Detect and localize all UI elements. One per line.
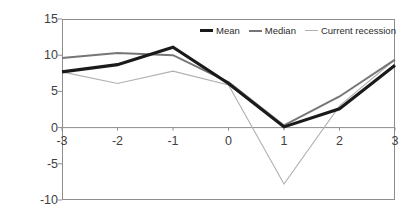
legend-entry: Mean (200, 26, 240, 36)
chart-legend: MeanMedianCurrent recession (200, 26, 396, 36)
series-line (62, 60, 395, 185)
legend-entry: Current recession (305, 26, 396, 36)
legend-swatch-icon (249, 30, 262, 32)
legend-swatch-icon (305, 30, 318, 31)
legend-label: Mean (216, 26, 240, 36)
line-chart: 151050-5-10 -3-2-10123 MeanMedianCurrent… (0, 0, 410, 219)
legend-entry: Median (249, 26, 296, 36)
legend-swatch-icon (200, 29, 213, 32)
series-line (62, 47, 395, 127)
legend-label: Current recession (321, 26, 396, 36)
legend-label: Median (265, 26, 296, 36)
